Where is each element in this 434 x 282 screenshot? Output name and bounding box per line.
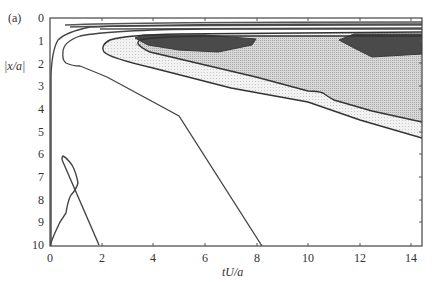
y-tick-label: 3 [22, 80, 44, 92]
y-tick-label: 8 [22, 194, 44, 206]
x-axis-title: tU/a [222, 266, 243, 278]
y-tick-label: 7 [22, 171, 44, 183]
y-tick-label: 5 [22, 126, 44, 138]
x-tick-label: 2 [92, 252, 112, 264]
y-tick-label: 4 [22, 103, 44, 115]
x-tick-label: 8 [247, 252, 267, 264]
panel-label: (a) [8, 12, 21, 24]
y-tick-label: 9 [22, 216, 44, 228]
x-tick-label: 0 [40, 252, 60, 264]
contour-chart [0, 0, 434, 282]
y-tick-label: 6 [22, 148, 44, 160]
y-tick-label: 1 [22, 35, 44, 47]
plot-area [50, 18, 422, 246]
y-tick-label: 0 [22, 12, 44, 24]
y-tick-label: 10 [22, 239, 44, 251]
x-tick-label: 6 [195, 252, 215, 264]
x-tick-label: 4 [143, 252, 163, 264]
x-tick-label: 10 [298, 252, 318, 264]
y-tick-label: 2 [22, 58, 44, 70]
x-tick-label: 14 [401, 252, 421, 264]
x-tick-label: 12 [350, 252, 370, 264]
